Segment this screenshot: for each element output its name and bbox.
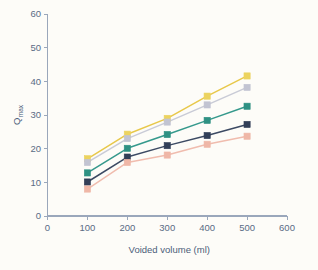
data-point-series-4-navy	[204, 132, 210, 138]
data-point-series-4-navy	[164, 143, 170, 149]
line-chart: 01020304050600100200300400500600 Voided …	[0, 0, 318, 270]
data-point-series-3-teal	[244, 103, 250, 109]
y-tick-label: 50	[30, 42, 41, 53]
data-point-series-1-yellow	[244, 73, 250, 79]
data-point-series-2-grey	[124, 135, 130, 141]
chart-container: 01020304050600100200300400500600 Voided …	[0, 0, 318, 270]
x-tick-label: 0	[45, 222, 50, 233]
data-point-series-3-teal	[164, 131, 170, 137]
x-tick-label: 300	[159, 222, 175, 233]
data-point-series-1-yellow	[204, 93, 210, 99]
x-tick-label: 600	[279, 222, 295, 233]
data-point-series-5-salmon	[244, 133, 250, 139]
x-tick-label: 200	[119, 222, 135, 233]
series-layer	[84, 73, 250, 192]
data-point-series-3-teal	[204, 117, 210, 123]
y-tick-label: 20	[30, 143, 41, 154]
y-axis-title: Qmax	[11, 104, 24, 125]
y-tick-label: 40	[30, 76, 41, 87]
data-point-series-5-salmon	[164, 152, 170, 158]
data-point-series-4-navy	[244, 121, 250, 127]
x-tick-label: 400	[199, 222, 215, 233]
x-axis-title: Voided volume (ml)	[129, 244, 210, 255]
y-tick-label: 0	[36, 210, 41, 221]
y-tick-label: 30	[30, 109, 41, 120]
data-point-series-5-salmon	[124, 159, 130, 165]
y-axis-title-group: Qmax	[11, 104, 24, 125]
data-point-series-2-grey	[244, 84, 250, 90]
data-point-series-2-grey	[84, 159, 90, 165]
data-point-series-3-teal	[124, 145, 130, 151]
data-point-series-5-salmon	[204, 141, 210, 147]
data-point-series-2-grey	[204, 102, 210, 108]
data-point-series-2-grey	[164, 119, 170, 125]
x-tick-label: 500	[239, 222, 255, 233]
data-point-series-4-navy	[84, 179, 90, 185]
y-tick-label: 60	[30, 8, 41, 19]
x-tick-label: 100	[79, 222, 95, 233]
data-point-series-3-teal	[84, 170, 90, 176]
data-point-series-5-salmon	[84, 186, 90, 192]
y-tick-label: 10	[30, 177, 41, 188]
